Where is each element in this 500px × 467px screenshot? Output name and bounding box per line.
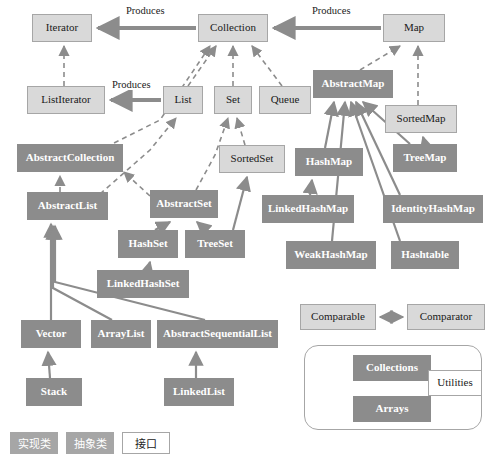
node-label: IdentityHashMap	[391, 203, 475, 215]
node-abstractsequentiallist[interactable]: AbstractSequentialList	[157, 320, 278, 348]
node-abstractcollection[interactable]: AbstractCollection	[17, 144, 123, 172]
node-iterator[interactable]: Iterator	[32, 14, 92, 42]
node-set[interactable]: Set	[214, 86, 252, 114]
edge-queue-extends-collection	[252, 46, 282, 86]
node-label: SortedSet	[231, 153, 274, 165]
node-label: Iterator	[46, 22, 78, 34]
edge-abstractset-extends-abstractcollection	[124, 172, 150, 196]
node-label: HashMap	[306, 156, 352, 168]
node-label: TreeSet	[197, 238, 233, 250]
edge-list-extends-collection	[188, 46, 216, 86]
node-arrays[interactable]: Arrays	[353, 396, 431, 422]
node-listiterator[interactable]: ListIterator	[27, 86, 105, 114]
node-list[interactable]: List	[163, 86, 203, 114]
node-collection[interactable]: Collection	[198, 14, 268, 42]
node-label: AbstractList	[38, 200, 97, 212]
node-linkedlist[interactable]: LinkedList	[164, 378, 234, 406]
node-abstractmap[interactable]: AbstractMap	[313, 70, 393, 98]
edge-hashmap-extends-abstractmap	[325, 102, 334, 148]
node-comparator[interactable]: Comparator	[407, 304, 485, 330]
edge-label-produces-listiterator: Produces	[110, 79, 153, 90]
node-label: Collections	[366, 362, 418, 374]
node-hashset[interactable]: HashSet	[118, 230, 178, 258]
node-label: Collection	[210, 22, 256, 34]
node-vector[interactable]: Vector	[21, 320, 81, 348]
node-abstractset[interactable]: AbstractSet	[150, 190, 218, 218]
node-label: LinkedHashMap	[268, 203, 348, 215]
edge-linkedhashset-extends-hashset	[148, 262, 150, 270]
node-sortedset[interactable]: SortedSet	[219, 145, 285, 173]
node-label: AbstractMap	[322, 78, 385, 90]
node-label: TreeMap	[404, 152, 447, 164]
legend-iface: 接口	[122, 432, 170, 454]
node-label: HashSet	[128, 238, 167, 250]
node-collections[interactable]: Collections	[353, 355, 431, 381]
edge-treeset-extends-abstractset	[197, 222, 206, 230]
node-abstractlist[interactable]: AbstractList	[27, 192, 108, 220]
edge-sortedset-extends-set	[237, 118, 245, 145]
node-arraylist[interactable]: ArrayList	[91, 320, 151, 348]
node-label: AbstractSequentialList	[163, 328, 272, 340]
edge-treeset-implements-sortedset	[233, 177, 247, 230]
edge-stack-extends-vector	[48, 352, 50, 378]
node-label: AbstractSet	[156, 198, 212, 210]
node-label: Queue	[271, 94, 300, 106]
node-utilities[interactable]: Utilities	[428, 370, 482, 396]
node-map[interactable]: Map	[383, 14, 445, 42]
node-label: WeakHashMap	[294, 249, 367, 261]
node-weakhashmap[interactable]: WeakHashMap	[286, 241, 376, 269]
node-label: List	[174, 94, 191, 106]
edge-treemap-implements-sortedmap	[423, 137, 425, 144]
edge-hashset-extends-abstractset	[155, 222, 170, 230]
class-diagram-canvas: IteratorCollectionMapListIteratorListSet…	[0, 0, 500, 467]
node-label: Comparable	[311, 311, 365, 323]
legend-impl: 实现类	[10, 432, 58, 454]
node-label: LinkedHashSet	[107, 278, 180, 290]
legend: 实现类抽象类接口	[10, 432, 170, 454]
legend-abst: 抽象类	[66, 432, 114, 454]
node-hashmap[interactable]: HashMap	[295, 148, 363, 176]
node-label: Vector	[36, 328, 67, 340]
node-label: Map	[404, 22, 424, 34]
node-label: Arrays	[376, 403, 409, 415]
node-label: Stack	[41, 386, 67, 398]
node-label: LinkedList	[173, 386, 225, 398]
node-label: AbstractCollection	[26, 152, 115, 164]
node-label: Utilities	[437, 377, 472, 389]
node-treemap[interactable]: TreeMap	[393, 144, 457, 172]
edge-label-produces-map: Produces	[310, 5, 353, 16]
edge-linkedhashmap-extends-hashmap	[310, 180, 312, 195]
edge-label-produces-iterator: Produces	[124, 5, 167, 16]
node-label: Set	[226, 94, 240, 106]
node-hashtable[interactable]: Hashtable	[391, 241, 459, 269]
node-stack[interactable]: Stack	[26, 378, 82, 406]
node-identityhashmap[interactable]: IdentityHashMap	[383, 195, 483, 223]
node-label: Comparator	[420, 311, 473, 323]
node-label: Hashtable	[401, 249, 449, 261]
node-linkedhashmap[interactable]: LinkedHashMap	[262, 195, 354, 223]
node-label: ArrayList	[97, 328, 144, 340]
node-label: ListIterator	[41, 94, 90, 106]
edge-abstractmap-implements-map	[360, 46, 400, 70]
node-treeset[interactable]: TreeSet	[185, 230, 245, 258]
node-sortedmap[interactable]: SortedMap	[385, 105, 457, 133]
node-comparable[interactable]: Comparable	[300, 304, 376, 330]
node-label: SortedMap	[397, 113, 446, 125]
node-queue[interactable]: Queue	[259, 86, 311, 114]
node-linkedhashset[interactable]: LinkedHashSet	[97, 270, 189, 298]
